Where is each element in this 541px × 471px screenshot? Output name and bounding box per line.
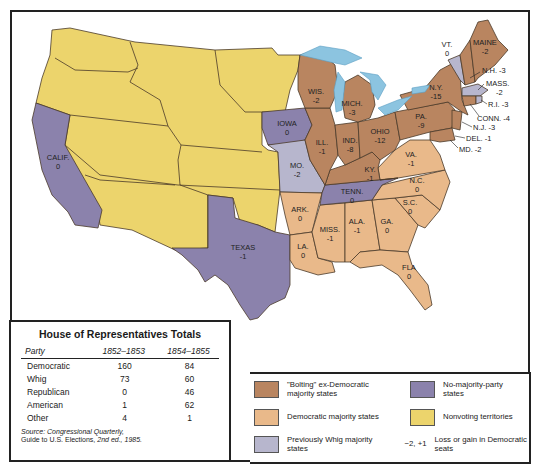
state-new-jersey <box>452 110 462 130</box>
svg-text:-8: -8 <box>347 145 354 154</box>
svg-text:0: 0 <box>301 251 305 260</box>
state-massachusetts <box>462 84 488 96</box>
legend-item-no-majority: No-majority-party states <box>410 381 520 398</box>
swatch-democratic <box>254 409 279 426</box>
table-title: House of Representatives Totals <box>21 328 219 340</box>
label-mass: MASS. <box>486 79 509 88</box>
legend-item-whig: Previously Whig majority states <box>254 436 384 453</box>
label-conn: CONN. -4 <box>477 114 510 123</box>
svg-text:0: 0 <box>56 162 60 171</box>
svg-text:0: 0 <box>445 49 449 58</box>
label-mo: MO. <box>290 161 304 170</box>
legend-item-delta: −2, +1 Loss or gain in Democratic seats <box>402 436 527 453</box>
svg-text:0: 0 <box>408 207 412 216</box>
label-nj: N.J. -3 <box>473 123 495 132</box>
svg-text:-1: -1 <box>327 234 334 243</box>
svg-text:-15: -15 <box>431 92 442 101</box>
table-row: Republican046 <box>21 385 219 398</box>
state-connecticut <box>462 96 476 106</box>
label-ga: GA. <box>381 217 394 226</box>
svg-text:-1: -1 <box>354 226 361 235</box>
label-fla: FLA <box>402 263 416 272</box>
source-note: Source: Congressional Quarterly, Guide t… <box>21 428 219 444</box>
label-ky: KY. <box>364 165 375 174</box>
svg-text:-2: -2 <box>496 88 503 97</box>
label-tenn: TENN. <box>341 187 364 196</box>
svg-text:-2: -2 <box>294 170 301 179</box>
label-sc: S.C. <box>403 198 418 207</box>
svg-text:0: 0 <box>350 196 354 205</box>
label-md: MD. -2 <box>459 145 482 154</box>
label-nc: N.C. <box>410 176 425 185</box>
label-maine: MAINE <box>473 38 497 47</box>
svg-text:-1: -1 <box>240 252 247 261</box>
svg-text:-2: -2 <box>482 47 489 56</box>
label-iowa: IOWA <box>277 119 297 128</box>
table-row: Whig7360 <box>21 372 219 385</box>
svg-text:-1: -1 <box>408 159 415 168</box>
label-ny: N.Y. <box>429 83 443 92</box>
svg-text:-9: -9 <box>418 121 425 130</box>
label-ri: R.I. -3 <box>488 100 508 109</box>
table-row: Other41 <box>21 411 219 424</box>
svg-text:-1: -1 <box>319 147 326 156</box>
map-legend: "Bolting" ex-Democratic majority states … <box>250 372 531 464</box>
label-la: LA. <box>297 242 308 251</box>
col-party: Party <box>21 346 89 359</box>
col-1852: 1852–1853 <box>89 346 154 359</box>
svg-text:0: 0 <box>285 128 289 137</box>
table-row: American162 <box>21 398 219 411</box>
svg-text:-3: -3 <box>349 108 356 117</box>
legend-item-bolting: "Bolting" ex-Democratic majority states <box>254 381 384 398</box>
label-ohio: OHIO <box>370 127 389 136</box>
svg-text:0: 0 <box>415 185 419 194</box>
table-row: Democratic16084 <box>21 359 219 373</box>
legend-item-nonvoting: Nonvoting territories <box>410 409 530 426</box>
svg-text:0: 0 <box>298 214 302 223</box>
label-vt: VT. <box>442 40 453 49</box>
swatch-bolting <box>254 381 279 398</box>
label-ala: ALA. <box>349 217 365 226</box>
state-florida <box>350 250 432 310</box>
legend-item-democratic: Democratic majority states <box>254 409 394 426</box>
label-ill: ILL. <box>316 138 329 147</box>
swatch-nonvoting <box>410 409 435 426</box>
label-wis: WIS. <box>308 87 324 96</box>
svg-text:-1: -1 <box>367 174 374 183</box>
label-ind: IND. <box>343 136 358 145</box>
svg-text:-12: -12 <box>375 136 386 145</box>
col-1854: 1854–1855 <box>154 346 219 359</box>
label-ark: ARK. <box>291 205 309 214</box>
label-mich: MICH. <box>341 99 362 108</box>
label-del: DEL. -1 <box>466 134 491 143</box>
label-miss: MISS. <box>320 225 340 234</box>
house-totals-table: House of Representatives Totals Party 18… <box>9 320 231 462</box>
svg-text:0: 0 <box>385 226 389 235</box>
label-nh: N.H. -3 <box>482 66 506 75</box>
totals-table: Party 1852–1853 1854–1855 Democratic1608… <box>21 346 219 424</box>
label-va: VA. <box>405 150 417 159</box>
svg-text:0: 0 <box>407 272 411 281</box>
swatch-whig <box>254 436 279 453</box>
label-calif: CALIF. <box>47 153 70 162</box>
swatch-no-majority <box>410 381 435 398</box>
label-pa: PA. <box>415 112 427 121</box>
label-texas: TEXAS <box>231 243 256 252</box>
svg-text:-2: -2 <box>313 96 320 105</box>
